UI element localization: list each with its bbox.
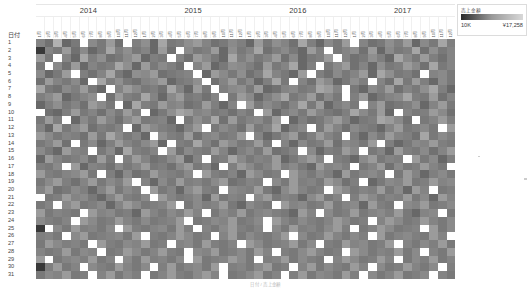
heatmap-cell[interactable] [316, 170, 325, 178]
heatmap-cell[interactable] [438, 124, 447, 132]
heatmap-cell[interactable] [394, 124, 403, 132]
heatmap-cell[interactable] [132, 217, 141, 225]
heatmap-cell[interactable] [385, 116, 394, 124]
heatmap-cell[interactable] [254, 54, 263, 62]
heatmap-cell[interactable] [420, 124, 429, 132]
heatmap-cell[interactable] [429, 232, 438, 240]
heatmap-cell[interactable] [237, 140, 246, 148]
heatmap-cell[interactable] [368, 201, 377, 209]
heatmap-cell[interactable] [246, 170, 255, 178]
heatmap-cell[interactable] [211, 155, 220, 163]
heatmap-cell[interactable] [97, 62, 106, 70]
heatmap-cell[interactable] [429, 240, 438, 248]
heatmap-cell[interactable] [420, 186, 429, 194]
heatmap-cell[interactable] [106, 163, 115, 171]
heatmap-cell[interactable] [97, 39, 106, 47]
month-column-header[interactable]: 3月 [368, 17, 377, 38]
heatmap-cell[interactable] [150, 85, 159, 93]
heatmap-cell[interactable] [36, 186, 45, 194]
heatmap-cell[interactable] [123, 186, 132, 194]
heatmap-cell[interactable] [115, 39, 124, 47]
heatmap-cell[interactable] [289, 209, 298, 217]
heatmap-cell[interactable] [350, 209, 359, 217]
heatmap-cell[interactable] [447, 132, 456, 140]
heatmap-cell[interactable] [420, 147, 429, 155]
heatmap-cell[interactable] [62, 155, 71, 163]
heatmap-cell[interactable] [385, 93, 394, 101]
heatmap-cell[interactable] [385, 147, 394, 155]
heatmap-cell[interactable] [45, 248, 54, 256]
heatmap-cell[interactable] [254, 93, 263, 101]
heatmap-cell[interactable] [184, 109, 193, 117]
heatmap-cell[interactable] [123, 263, 132, 271]
heatmap-cell[interactable] [150, 186, 159, 194]
heatmap-cell[interactable] [88, 39, 97, 47]
heatmap-cell[interactable] [193, 178, 202, 186]
heatmap-cell[interactable] [350, 201, 359, 209]
heatmap-cell[interactable] [359, 155, 368, 163]
heatmap-cell[interactable] [289, 155, 298, 163]
heatmap-cell[interactable] [246, 256, 255, 264]
heatmap-cell[interactable] [420, 201, 429, 209]
heatmap-cell[interactable] [62, 62, 71, 70]
heatmap-cell[interactable] [263, 232, 272, 240]
heatmap-cell[interactable] [368, 85, 377, 93]
heatmap-cell[interactable] [246, 101, 255, 109]
heatmap-cell[interactable] [53, 147, 62, 155]
heatmap-cell[interactable] [447, 101, 456, 109]
month-column-header[interactable]: 3月 [158, 17, 167, 38]
heatmap-cell[interactable] [438, 62, 447, 70]
heatmap-cell[interactable] [342, 109, 351, 117]
heatmap-cell[interactable] [45, 178, 54, 186]
heatmap-cell[interactable] [342, 116, 351, 124]
heatmap-cell[interactable] [193, 240, 202, 248]
heatmap-cell[interactable] [106, 47, 115, 55]
heatmap-cell[interactable] [158, 170, 167, 178]
heatmap-cell[interactable] [167, 70, 176, 78]
heatmap-cell[interactable] [307, 116, 316, 124]
heatmap-cell[interactable] [438, 209, 447, 217]
heatmap-cell[interactable] [36, 85, 45, 93]
heatmap-cell[interactable] [420, 54, 429, 62]
heatmap-cell[interactable] [71, 248, 80, 256]
heatmap-cell[interactable] [71, 271, 80, 279]
heatmap-cell[interactable] [429, 85, 438, 93]
heatmap-cell[interactable] [412, 263, 421, 271]
heatmap-cell[interactable] [403, 256, 412, 264]
heatmap-cell[interactable] [350, 47, 359, 55]
heatmap-cell[interactable] [150, 54, 159, 62]
heatmap-cell[interactable] [272, 240, 281, 248]
heatmap-cell[interactable] [403, 186, 412, 194]
heatmap-cell[interactable] [202, 39, 211, 47]
heatmap-cell[interactable] [385, 109, 394, 117]
heatmap-cell[interactable] [176, 248, 185, 256]
heatmap-cell[interactable] [281, 70, 290, 78]
heatmap-cell[interactable] [263, 240, 272, 248]
heatmap-cell[interactable] [211, 132, 220, 140]
heatmap-cell[interactable] [316, 124, 325, 132]
heatmap-cell[interactable] [298, 116, 307, 124]
heatmap-cell[interactable] [141, 194, 150, 202]
heatmap-cell[interactable] [219, 194, 228, 202]
heatmap-cell[interactable] [342, 124, 351, 132]
heatmap-cell[interactable] [132, 232, 141, 240]
heatmap-cell[interactable] [333, 248, 342, 256]
heatmap-cell[interactable] [429, 178, 438, 186]
heatmap-cell[interactable] [123, 256, 132, 264]
heatmap-cell[interactable] [97, 170, 106, 178]
heatmap-cell[interactable] [36, 62, 45, 70]
heatmap-cell[interactable] [228, 263, 237, 271]
heatmap-cell[interactable] [394, 62, 403, 70]
heatmap-cell[interactable] [71, 225, 80, 233]
heatmap-cell[interactable] [429, 155, 438, 163]
heatmap-cell[interactable] [71, 232, 80, 240]
heatmap-cell[interactable] [342, 155, 351, 163]
heatmap-cell[interactable] [254, 201, 263, 209]
heatmap-cell[interactable] [359, 201, 368, 209]
heatmap-cell[interactable] [342, 47, 351, 55]
heatmap-cell[interactable] [228, 109, 237, 117]
heatmap-cell[interactable] [158, 271, 167, 279]
heatmap-cell[interactable] [184, 78, 193, 86]
heatmap-cell[interactable] [53, 85, 62, 93]
heatmap-cell[interactable] [420, 256, 429, 264]
